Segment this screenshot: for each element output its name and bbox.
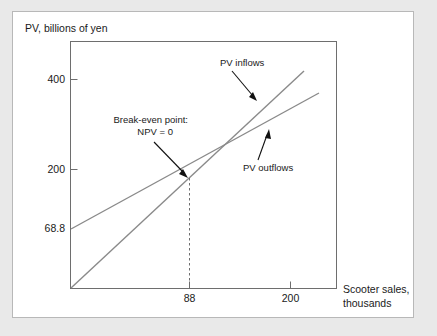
pv-outflows-arrow — [258, 129, 271, 160]
x-tick-label-88: 88 — [184, 292, 196, 304]
series-label-pv-outflows: PV outflows — [243, 162, 293, 173]
x-tick-label-200: 200 — [282, 292, 300, 304]
break-even-annotation-line1: Break-even point: — [114, 114, 188, 125]
series-label-pv-inflows: PV inflows — [220, 57, 265, 68]
x-axis-title-line1: Scooter sales, — [343, 283, 410, 295]
x-axis-title-line2: thousands — [343, 297, 391, 309]
break-even-annotation-line2: NPV = 0 — [137, 126, 173, 137]
series-line-pv-outflows — [71, 93, 319, 229]
y-axis-title: PV, billions of yen — [25, 22, 108, 34]
chart-canvas: PV, billions of yen 400 200 68.8 88 200 … — [13, 12, 413, 317]
pv-inflows-arrow — [232, 71, 257, 101]
y-tick-label-68-8: 68.8 — [45, 222, 66, 234]
break-even-arrow — [154, 142, 188, 178]
series-line-pv-inflows — [71, 71, 304, 288]
y-tick-label-400: 400 — [47, 73, 65, 85]
figure-root: PV, billions of yen 400 200 68.8 88 200 … — [0, 0, 437, 336]
y-tick-label-200: 200 — [47, 163, 65, 175]
figure-card: PV, billions of yen 400 200 68.8 88 200 … — [12, 11, 414, 318]
